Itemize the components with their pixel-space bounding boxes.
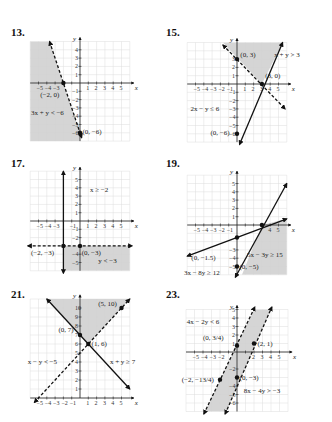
x-tick-label: −4 — [45, 400, 51, 406]
y-tick-label: −6 — [229, 131, 235, 137]
x-tick-label: 4 — [111, 223, 114, 229]
graphs-canvas: 13.xy−5−4−3123454321−1−2−3−4−5−6(−2, 0)3… — [0, 0, 332, 422]
x-axis-label: x — [134, 399, 139, 407]
y-tick-label: 3 — [232, 324, 235, 330]
y-tick-label: 4 — [75, 359, 78, 365]
y-tick-label: −5 — [229, 392, 235, 398]
point-marker — [119, 306, 123, 310]
x-tick-label: 2 — [252, 354, 255, 360]
x-tick-label: −3 — [210, 86, 216, 92]
x-tick-label: −2 — [218, 86, 224, 92]
y-tick-label: −1 — [229, 89, 235, 95]
x-tick-label: 4 — [268, 86, 271, 92]
point-marker — [252, 341, 256, 345]
graph-annotation: x ≥ −2 — [90, 186, 109, 194]
y-tick-label: 4 — [75, 47, 78, 53]
x-tick-label: 4 — [111, 400, 114, 406]
y-tick-label: 4 — [75, 185, 78, 191]
graph-annotation: (0, −3) — [240, 374, 260, 382]
x-tick-label: 3 — [103, 400, 106, 406]
graph-problem-23: 23.xy−5−4−3−2234554321−2−4−5−64x − 2y < … — [166, 288, 297, 414]
y-tick-label: 2 — [75, 201, 78, 207]
y-tick-label: −6 — [72, 130, 78, 136]
problem-number: 19. — [166, 157, 180, 169]
point-marker — [260, 82, 264, 86]
graph-annotation: (0, −1.5) — [191, 254, 216, 262]
y-tick-label: −3 — [229, 247, 235, 253]
graph-annotation: (0, 3/4) — [203, 334, 224, 342]
x-tick-label: −3 — [210, 354, 216, 360]
graph-problem-13: 13.xy−5−4−3123454321−1−2−3−4−5−6(−2, 0)3… — [11, 26, 139, 141]
y-tick-label: −4 — [229, 255, 235, 261]
y-tick-label: 4 — [232, 315, 235, 321]
x-tick-label: 5 — [278, 354, 281, 360]
graph-annotation: 3x + y < −6 — [31, 109, 64, 117]
x-tick-label: 4 — [268, 227, 271, 233]
graph-annotation: (3, 0) — [265, 72, 281, 80]
x-axis-label: x — [291, 226, 296, 234]
x-tick-label: 3 — [261, 354, 264, 360]
x-tick-label: 5 — [120, 400, 123, 406]
y-tick-label: 1 — [75, 386, 78, 392]
x-tick-label: −3 — [53, 223, 59, 229]
y-tick-label: 4 — [232, 189, 235, 195]
y-tick-label: 1 — [232, 341, 235, 347]
y-tick-label: −4 — [72, 251, 78, 257]
point-marker — [235, 235, 239, 239]
point-marker — [61, 244, 65, 248]
x-tick-label: −2 — [218, 354, 224, 360]
graph-annotation: (−2, −13/4) — [182, 376, 215, 384]
y-tick-label: 2 — [232, 332, 235, 338]
x-tick-label: −5 — [37, 223, 43, 229]
y-tick-label: 1 — [75, 210, 78, 216]
x-tick-label: −4 — [202, 227, 208, 233]
x-tick-label: 5 — [277, 227, 280, 233]
graph-annotation: (1, 6) — [92, 340, 108, 348]
problem-number: 15. — [166, 26, 180, 38]
x-tick-label: −5 — [194, 86, 200, 92]
x-tick-label: −2 — [61, 400, 67, 406]
graph-annotation: (−2, 0) — [40, 91, 60, 99]
y-tick-label: −2 — [72, 97, 78, 103]
y-tick-label: 3 — [75, 193, 78, 199]
y-tick-label: 10 — [75, 305, 81, 311]
x-tick-label: 2 — [252, 86, 255, 92]
y-tick-label: 3 — [75, 55, 78, 61]
y-tick-label: 2 — [232, 205, 235, 211]
x-tick-label: −5 — [37, 85, 43, 91]
x-tick-label: 1 — [86, 400, 89, 406]
x-tick-label: 5 — [120, 85, 123, 91]
x-tick-label: −1 — [227, 227, 233, 233]
point-marker — [86, 342, 90, 346]
point-marker — [78, 333, 82, 337]
x-tick-label: 3 — [103, 223, 106, 229]
x-tick-label: −5 — [194, 227, 200, 233]
graph-annotation: x + y ≥ 7 — [110, 358, 136, 366]
x-tick-label: −5 — [37, 400, 43, 406]
x-tick-label: −1 — [70, 400, 76, 406]
y-tick-label: −4 — [229, 383, 235, 389]
y-tick-label: 8 — [75, 323, 78, 329]
x-tick-label: 1 — [86, 223, 89, 229]
y-tick-label: 9 — [75, 314, 78, 320]
y-tick-label: −5 — [229, 123, 235, 129]
y-tick-label: 2 — [75, 377, 78, 383]
y-tick-label: −1 — [72, 226, 78, 232]
y-tick-label: 3 — [232, 197, 235, 203]
problem-number: 13. — [11, 26, 25, 38]
x-tick-label: −3 — [53, 400, 59, 406]
y-tick-label: −1 — [72, 88, 78, 94]
point-marker — [78, 244, 82, 248]
graph-problem-15: 15.xy−5−4−3−2−112345321−1−2−3−4−5−6(0, 3… — [166, 26, 300, 145]
graph-annotation: x + y > 3 — [274, 51, 300, 59]
graph-annotation: (2, 1) — [257, 340, 273, 348]
x-tick-label: −4 — [202, 86, 208, 92]
problem-number: 21. — [11, 288, 25, 300]
x-tick-label: −4 — [45, 223, 51, 229]
x-tick-label: 4 — [269, 354, 272, 360]
x-tick-label: 5 — [120, 223, 123, 229]
y-tick-label: 5 — [75, 350, 78, 356]
point-marker — [235, 132, 239, 136]
y-tick-label: −5 — [72, 260, 78, 266]
y-tick-label: 5 — [232, 307, 235, 313]
